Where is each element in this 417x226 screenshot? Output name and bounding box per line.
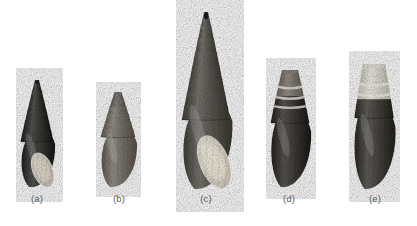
- shell-image-c: [176, 12, 236, 190]
- specimen-a: [16, 80, 58, 188]
- panel-label-b: (b): [90, 194, 148, 204]
- specimen-d: [266, 70, 314, 188]
- specimen-c: [176, 12, 236, 190]
- shell-image-a: [16, 80, 58, 188]
- panel-label-a: (a): [8, 194, 66, 204]
- panel-label-c: (c): [177, 194, 235, 204]
- figure-plate: (a)(b)(c)(d)(e): [0, 0, 417, 226]
- shell-image-b: [96, 92, 140, 188]
- panel-label-e: (e): [346, 194, 404, 204]
- shell-image-e: [350, 64, 398, 190]
- panel-label-d: (d): [260, 194, 318, 204]
- specimen-b: [96, 92, 140, 188]
- shell-image-d: [266, 70, 314, 188]
- specimen-e: [350, 64, 398, 190]
